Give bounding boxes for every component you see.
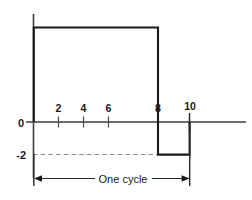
plot-background [0, 0, 252, 200]
x-tick-label-10: 10 [184, 100, 196, 112]
y-label-zero: 0 [18, 117, 24, 129]
y-label-minus-two: -2 [16, 149, 26, 161]
x-tick-label-4: 4 [81, 102, 87, 114]
waveform-figure: 2 4 6 8 10 0 -2 One cycle [0, 0, 252, 200]
waveform-plot: 2 4 6 8 10 0 -2 One cycle [0, 0, 252, 200]
x-tick-label-6: 6 [106, 102, 112, 114]
one-cycle-label: One cycle [99, 173, 148, 185]
x-tick-label-2: 2 [56, 102, 62, 114]
x-tick-label-8: 8 [155, 102, 161, 114]
